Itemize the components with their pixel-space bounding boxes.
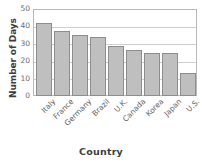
y-tick-label: 40 <box>12 22 30 30</box>
x-axis-tick-labels: Italy France Germany Brazil U.K. Canada … <box>33 97 197 137</box>
y-tick-label: 0 <box>12 92 30 100</box>
bar-japan <box>162 53 178 97</box>
y-axis-tick-labels: 50 40 30 20 10 0 <box>12 0 30 162</box>
x-tick-label-brazil: Brazil <box>90 97 111 118</box>
y-tick-label: 10 <box>12 75 30 83</box>
x-tick-label-us: U.S. <box>184 97 201 114</box>
bar-chart: Number of Days 50 40 30 20 10 0 Italy Fr… <box>0 0 202 162</box>
bar-korea <box>144 53 160 97</box>
y-tick-label: 30 <box>12 40 30 48</box>
bar-france <box>54 31 70 96</box>
bar-uk <box>108 46 124 96</box>
bar-italy <box>36 23 52 96</box>
bar-germany <box>72 35 88 96</box>
x-tick-label-japan: Japan <box>162 97 183 118</box>
chart-title-cropped <box>95 0 165 4</box>
bar-canada <box>126 50 142 96</box>
bar-brazil <box>90 37 106 96</box>
x-tick-label-korea: Korea <box>144 97 165 118</box>
y-tick-label: 20 <box>12 57 30 65</box>
bar-series <box>33 9 197 96</box>
y-tick-label: 50 <box>12 5 30 13</box>
bar-us <box>180 73 196 96</box>
x-axis-title: Country <box>0 146 202 157</box>
